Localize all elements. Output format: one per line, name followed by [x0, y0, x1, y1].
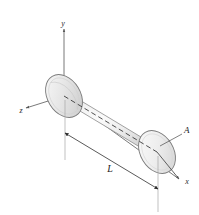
area-label: A	[183, 125, 190, 135]
length-label: L	[106, 163, 113, 174]
cylinder-figure: L A y z x	[0, 0, 199, 215]
figure-canvas: L A y z x	[0, 0, 199, 215]
figure-background	[0, 0, 199, 215]
x-axis-label: x	[184, 177, 189, 186]
y-axis-label: y	[60, 19, 65, 28]
